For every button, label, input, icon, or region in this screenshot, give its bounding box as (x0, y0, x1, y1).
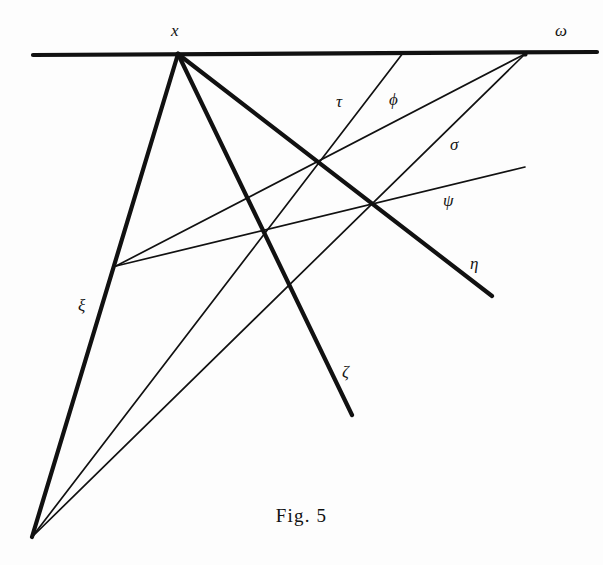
point-label-omega: ω (555, 22, 567, 39)
line-zeta-line (178, 54, 352, 415)
line-label-sigma: σ (450, 136, 458, 153)
line-label-tau: τ (336, 93, 342, 110)
line-phi-line (116, 54, 525, 266)
figure-caption: Fig. 5 (0, 505, 603, 527)
lines-group (32, 52, 597, 537)
geometry-diagram (0, 0, 603, 565)
line-label-psi: ψ (443, 192, 454, 209)
figure-page: xωτϕσψηζξ Fig. 5 (0, 0, 603, 565)
point-x (175, 51, 180, 56)
line-eta-line (178, 54, 492, 296)
point-omega (522, 51, 527, 56)
line-label-xi: ξ (78, 297, 85, 314)
point-label-x: x (171, 22, 179, 39)
line-label-phi: ϕ (389, 91, 398, 108)
line-horizontal-baseline (33, 52, 597, 55)
line-tau-line (32, 53, 403, 537)
line-label-zeta: ζ (342, 363, 349, 380)
line-psi-line (116, 167, 525, 266)
line-label-eta: η (470, 255, 478, 272)
